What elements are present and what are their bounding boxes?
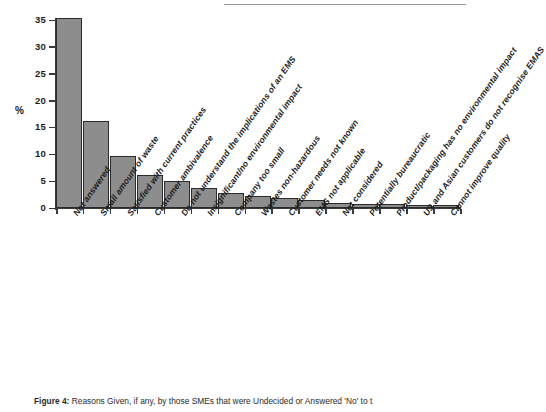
x-axis-tick: [298, 209, 300, 214]
x-axis-tick: [137, 209, 139, 214]
y-axis-tick: [49, 127, 56, 129]
y-axis-tick-label: 20: [6, 95, 46, 106]
y-axis-tick: [49, 46, 56, 48]
y-axis-tick: [49, 73, 56, 75]
bar: [56, 18, 82, 208]
x-axis-tick: [433, 209, 435, 214]
figure-number: Figure 4:: [34, 396, 69, 406]
x-axis-tick: [164, 209, 166, 214]
x-axis-tick: [110, 209, 112, 214]
x-axis-tick: [325, 209, 327, 214]
figure-caption: Figure 4: Reasons Given, if any, by thos…: [34, 396, 454, 410]
x-axis-tick: [191, 209, 193, 214]
x-axis-tick: [218, 209, 220, 214]
x-axis-category-labels: Not answeredSmall amount of wasteSatisfi…: [0, 206, 466, 386]
figure-caption-text: Reasons Given, if any, by those SMEs tha…: [72, 396, 373, 406]
x-axis-tick: [271, 209, 273, 214]
x-axis-tick: [460, 209, 462, 214]
scan-rule-artifact: [224, 4, 466, 5]
y-axis-tick: [49, 100, 56, 102]
y-axis-tick-label: 5: [6, 175, 46, 186]
x-axis-tick: [56, 209, 58, 214]
y-axis-tick: [49, 154, 56, 156]
x-axis-tick: [379, 209, 381, 214]
x-axis-tick: [245, 209, 247, 214]
y-axis-tick: [49, 20, 56, 22]
y-axis-tick-label: 35: [6, 14, 46, 25]
y-axis-tick-label: 10: [6, 148, 46, 159]
y-axis-tick-label: 15: [6, 121, 46, 132]
x-axis-tick: [352, 209, 354, 214]
y-axis-tick-label: 30: [6, 41, 46, 52]
y-axis-tick-label: 25: [6, 68, 46, 79]
x-axis-tick: [406, 209, 408, 214]
y-axis-tick: [49, 181, 56, 183]
x-axis-tick: [83, 209, 85, 214]
